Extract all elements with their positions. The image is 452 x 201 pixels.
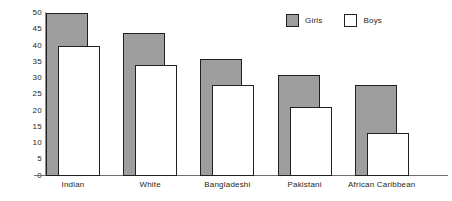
y-tick-40: 40 — [12, 42, 42, 50]
y-axis-ticks: 50454035302520151050 — [8, 0, 42, 201]
bar-boys-indian — [58, 46, 100, 176]
legend-label-girls: Girls — [305, 16, 322, 25]
bar-boys-white — [135, 65, 177, 176]
legend-swatch-boys-icon — [344, 14, 357, 27]
legend-item-girls: Girls — [286, 14, 322, 27]
bar-boys-bangladeshi — [212, 85, 254, 176]
bar-boys-pakistani — [290, 107, 332, 175]
x-axis-label-pakistani: Pakistani — [264, 180, 346, 189]
y-tick-20: 20 — [12, 107, 42, 115]
y-tick-10: 10 — [12, 139, 42, 147]
x-axis-label-indian: Indian — [32, 180, 114, 189]
x-axis-label-african-caribbean: African Caribbean — [341, 180, 423, 189]
legend-item-boys: Boys — [344, 14, 382, 27]
bar-group-bangladeshi — [200, 10, 256, 176]
y-tick-5: 5 — [12, 155, 42, 163]
y-tick-25: 25 — [12, 90, 42, 98]
y-tick-30: 30 — [12, 74, 42, 82]
bar-group-pakistani — [278, 10, 334, 176]
bar-group-indian — [46, 10, 102, 176]
y-tick-35: 35 — [12, 58, 42, 66]
legend-label-boys: Boys — [363, 16, 382, 25]
y-tick-50: 50 — [12, 9, 42, 17]
legend-swatch-girls-icon — [286, 14, 299, 27]
y-tick-45: 45 — [12, 25, 42, 33]
x-axis-label-white: White — [109, 180, 191, 189]
chart-legend: Girls Boys — [286, 14, 382, 27]
bar-group-african-caribbean — [355, 10, 411, 176]
x-axis-label-bangladeshi: Bangladeshi — [186, 180, 268, 189]
y-tick-15: 15 — [12, 123, 42, 131]
bar-chart: Percentages 50454035302520151050 IndianW… — [0, 0, 452, 201]
bar-group-white — [123, 10, 179, 176]
bar-boys-african-caribbean — [367, 133, 409, 175]
